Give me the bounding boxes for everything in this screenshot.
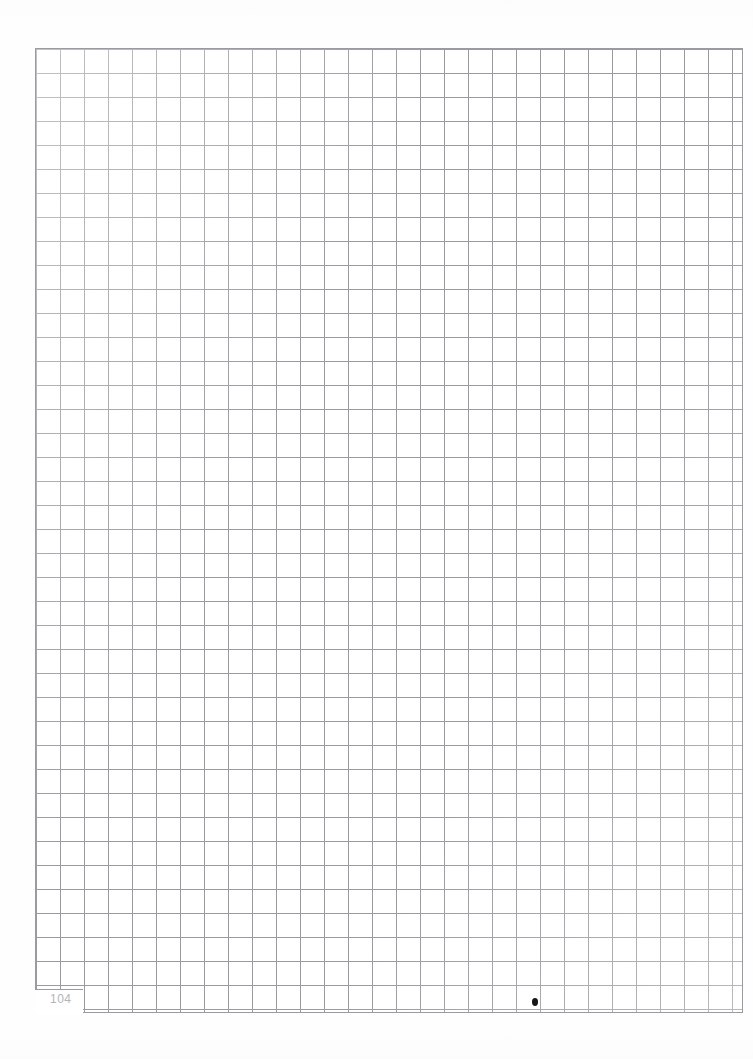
grid-bottom-border bbox=[83, 1012, 743, 1013]
ink-dot-mark bbox=[532, 998, 538, 1006]
grid-notch-bottom-border bbox=[35, 989, 83, 990]
grid-right-border bbox=[742, 48, 743, 1013]
paper-grain-overlay bbox=[36, 49, 743, 1013]
page-number: 104 bbox=[50, 993, 72, 1005]
graph-paper-page: 104 bbox=[0, 0, 753, 1059]
graph-paper-grid bbox=[35, 48, 743, 1013]
